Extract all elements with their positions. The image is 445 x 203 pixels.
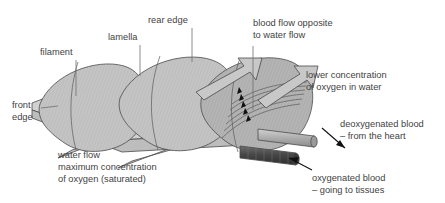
- label-blood-flow-line2: to water flow: [253, 30, 305, 40]
- label-lamella: lamella: [108, 32, 138, 42]
- label-front-edge-line2: edge: [12, 112, 33, 122]
- label-blood-flow-line1: blood flow opposite: [253, 18, 333, 28]
- label-water-flow-line1: water flow: [57, 150, 100, 160]
- label-rear-edge: rear edge: [148, 15, 188, 25]
- gill-diagram-svg: filament lamella rear edge front edge bl…: [0, 0, 445, 203]
- label-front-edge-line1: front: [12, 100, 31, 110]
- label-filament: filament: [40, 47, 73, 57]
- label-oxygenated-line2: – going to tissues: [312, 185, 385, 195]
- label-lower-oxygen-line1: lower concentration: [306, 70, 387, 80]
- gill-diagram: filament lamella rear edge front edge bl…: [0, 0, 445, 203]
- label-water-flow-line2: maximum concentration: [58, 162, 157, 172]
- label-oxygenated-line1: oxygenated blood: [312, 173, 385, 183]
- label-water-flow-line3: of oxygen (saturated): [58, 174, 146, 184]
- label-deoxygenated-line1: deoxygenated blood: [340, 119, 424, 129]
- label-lower-oxygen-line2: of oxygen in water: [306, 82, 381, 92]
- label-deoxygenated-line2: – from the heart: [340, 131, 406, 141]
